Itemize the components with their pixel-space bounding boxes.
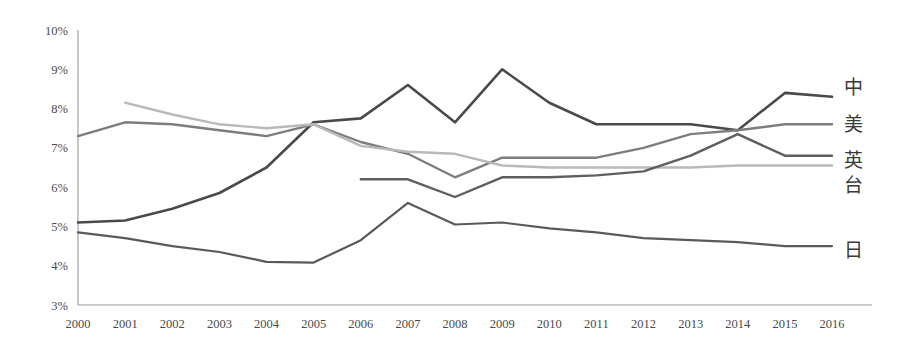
y-axis-ticks: 3%4%5%6%7%8%9%10% [45,24,68,313]
series-labels-group: 中美英台日 [844,76,863,261]
x-axis-tick-label: 2000 [66,317,91,331]
x-axis-tick-label: 2016 [820,317,845,331]
series-label-英: 英 [844,149,863,171]
y-axis-tick-label: 8% [51,102,68,116]
y-axis-tick-label: 7% [51,141,68,155]
x-axis-tick-label: 2007 [395,317,420,331]
y-axis-tick-label: 3% [51,299,68,313]
chart-container: 3%4%5%6%7%8%9%10% 2000200120022003200420… [0,0,906,350]
x-axis-tick-label: 2008 [443,317,468,331]
line-chart: 3%4%5%6%7%8%9%10% 2000200120022003200420… [0,0,906,350]
series-line-中 [78,69,832,222]
x-axis-tick-label: 2015 [772,317,797,331]
x-axis-tick-label: 2006 [348,317,373,331]
series-label-日: 日 [844,239,863,261]
x-axis-tick-label: 2005 [301,317,326,331]
series-label-中: 中 [844,76,863,98]
x-axis-tick-label: 2012 [631,317,656,331]
y-axis-tick-label: 10% [45,24,68,38]
x-axis-tick-label: 2009 [490,317,515,331]
x-axis-tick-label: 2011 [584,317,609,331]
series-line-英 [125,103,832,168]
series-label-美: 美 [844,113,863,135]
x-axis-tick-label: 2010 [537,317,562,331]
x-axis-ticks: 2000200120022003200420052006200720082009… [66,317,845,331]
series-label-台: 台 [844,174,863,196]
y-axis-tick-label: 6% [51,181,68,195]
data-series-group [78,69,832,262]
y-axis-tick-label: 5% [51,220,68,234]
x-axis-tick-label: 2013 [678,317,703,331]
series-line-日 [78,203,832,263]
x-axis-tick-label: 2003 [207,317,232,331]
y-axis-tick-label: 9% [51,63,68,77]
series-line-美 [78,122,832,177]
x-axis-tick-label: 2004 [254,317,280,331]
x-axis-tick-label: 2002 [160,317,185,331]
x-axis-tick-label: 2014 [725,317,751,331]
x-axis-tick-label: 2001 [113,317,138,331]
y-axis-tick-label: 4% [51,259,68,273]
